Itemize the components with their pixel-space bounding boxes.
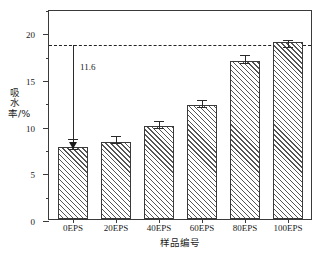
- errorbar-cap-bottom-60eps: [197, 107, 207, 108]
- annotation-value-label: 11.6: [80, 63, 95, 72]
- y-tick-major-5: 5: [43, 174, 49, 175]
- plot-area: 0 5 10 15 20: [48, 10, 312, 220]
- y-tick-minor-12p5: [46, 104, 49, 105]
- errorbar-cap-bottom-80eps: [240, 63, 250, 64]
- y-tick-major-20: 20: [43, 34, 49, 35]
- bar-0eps[interactable]: [58, 147, 88, 219]
- bar-80eps[interactable]: [230, 61, 260, 219]
- errorbar-cap-bottom-40eps: [154, 128, 164, 129]
- errorbar-cap-top-80eps: [240, 55, 250, 56]
- bar-40eps[interactable]: [144, 126, 174, 219]
- water-absorption-bar-chart: 0 5 10 15 20: [0, 0, 331, 263]
- x-tick-label-100eps: 100EPS: [273, 224, 302, 233]
- errorbar-cap-top-20eps: [111, 136, 121, 137]
- errorbar-cap-bottom-100eps: [283, 47, 293, 48]
- y-tick-major-15: 15: [43, 81, 49, 82]
- reference-line-dashed: [49, 45, 311, 46]
- y-tick-minor-2p5: [46, 198, 49, 199]
- bar-20eps[interactable]: [101, 142, 131, 219]
- y-tick-label-20: 20: [26, 31, 35, 40]
- bar-60eps[interactable]: [187, 105, 217, 219]
- errorbar-cap-top-60eps: [197, 100, 207, 101]
- y-tick-major-10: 10: [43, 128, 49, 129]
- errorbar-cap-bottom-0eps: [68, 149, 78, 150]
- y-tick-major-0: 0: [43, 221, 49, 222]
- x-axis-title: 样品编号: [48, 238, 312, 248]
- errorbar-cap-top-40eps: [154, 121, 164, 122]
- errorbar-cap-top-100eps: [283, 40, 293, 41]
- x-tick-label-20eps: 20EPS: [104, 224, 129, 233]
- y-tick-label-5: 5: [31, 171, 36, 180]
- y-tick-minor-22p5: [46, 11, 49, 12]
- x-tick-label-40eps: 40EPS: [147, 224, 172, 233]
- x-tick-label-0eps: 0EPS: [63, 224, 83, 233]
- errorbar-line-80eps: [245, 55, 246, 63]
- y-tick-minor-7p5: [46, 151, 49, 152]
- x-tick-label-60eps: 60EPS: [190, 224, 215, 233]
- y-axis-title: 吸水率/%: [8, 88, 21, 119]
- y-tick-label-10: 10: [26, 124, 35, 133]
- y-tick-label-0: 0: [31, 218, 36, 227]
- y-tick-label-15: 15: [26, 78, 35, 87]
- x-tick-label-80eps: 80EPS: [233, 224, 258, 233]
- annotation-arrow-shaft: [73, 45, 74, 142]
- annotation-arrow-head-icon: [69, 142, 77, 149]
- errorbar-cap-bottom-20eps: [111, 143, 121, 144]
- errorbar-line-60eps: [202, 100, 203, 107]
- y-tick-minor-17p5: [46, 58, 49, 59]
- bar-100eps[interactable]: [273, 42, 303, 219]
